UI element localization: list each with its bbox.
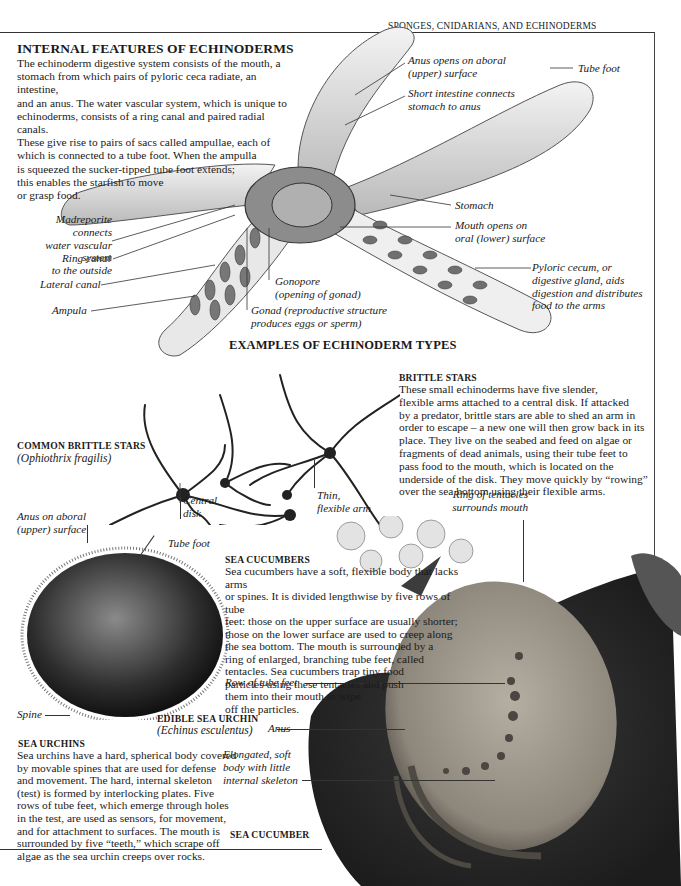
leader-anus	[277, 729, 405, 730]
common-brittle-stars-caption: COMMON BRITTLE STARS	[17, 440, 146, 451]
label-short-intestine: Short intestine connects stomach to anus	[408, 87, 515, 113]
brittle-stars-body: These small echinoderms have five slende…	[399, 383, 659, 498]
internal-features-body: The echinoderm digestive system consists…	[17, 57, 287, 202]
label-line: Madreporite connects	[16, 213, 112, 239]
label-line: Anus opens on aboral	[408, 54, 506, 67]
label-line: Ring of tentacles	[448, 488, 528, 501]
text-line: by movable spines that are used for defe…	[17, 762, 237, 775]
label-spine: Spine	[17, 708, 42, 721]
label-gonopore: Gonopore (opening of gonad)	[275, 275, 361, 301]
label-ampula: Ampula	[52, 304, 87, 317]
leader-urchin-anus	[87, 525, 88, 543]
sea-urchins-body: Sea urchins have a hard, spherical body …	[17, 749, 237, 862]
label-line: surrounds mouth	[448, 501, 528, 514]
text-line: underside of the disk. They move quickly…	[399, 473, 659, 486]
label-line: (opening of gonad)	[275, 288, 361, 301]
text-line: flexible arms attached to a central disk…	[399, 396, 659, 409]
label-line: Gonopore	[275, 275, 361, 288]
label-thin-arm: Thin, flexible arm	[317, 489, 371, 515]
label-urchin-tube-foot: Tube foot	[168, 537, 210, 550]
text-line: (test) is formed by interlocking plates.…	[17, 787, 237, 800]
text-line: and an anus. The water vascular system, …	[17, 97, 287, 110]
text-line: These give rise to pairs of sacs called …	[17, 136, 287, 149]
label-ring-canal: Ring canal	[62, 252, 111, 265]
label-line: digestion and distributes	[532, 287, 643, 300]
label-line: flexible arm	[317, 502, 371, 515]
label-pyloric-cecum: Pyloric cecum, or digestive gland, aids …	[532, 261, 643, 312]
text-line: Sea cucumbers have a soft, flexible body…	[225, 565, 460, 590]
label-lateral-canal: Lateral canal	[40, 278, 101, 291]
label-madreporite: Madreporite connects water vascular syst…	[16, 213, 112, 277]
label-line: Gonad (reproductive structure	[251, 304, 387, 317]
text-line: The echinoderm digestive system consists…	[17, 57, 287, 70]
label-line: Elongated, soft	[223, 748, 298, 761]
text-line: surrounded by five “teeth,” which scrape…	[17, 837, 237, 850]
label-row-of-tube-feet: Row of tube feet	[225, 676, 297, 689]
internal-features-title: INTERNAL FEATURES OF ECHINODERMS	[17, 41, 294, 57]
text-line: place. They live on the seabed and feed …	[399, 434, 659, 447]
sea-urchins-title: SEA URCHINS	[18, 738, 85, 749]
leader-tentacles	[523, 520, 524, 582]
label-line: oral (lower) surface	[455, 232, 545, 245]
text-line: These small echinoderms have five slende…	[399, 383, 659, 396]
edible-sea-urchin-latin: (Echinus esculentus)	[157, 724, 253, 737]
label-line: stomach to anus	[408, 100, 515, 113]
text-line: pass food to the mouth, which is located…	[399, 460, 659, 473]
text-line: feet: those on the upper surface are usu…	[225, 615, 460, 628]
text-line: and movement. The hard, internal skeleto…	[17, 774, 237, 787]
text-line: by a predator, brittle stars are able to…	[399, 409, 659, 422]
label-line: digestive gland, aids	[532, 274, 643, 287]
label-line: Thin,	[317, 489, 371, 502]
text-line: this enables the starfish to move	[17, 176, 287, 189]
label-central-disk: Central disk	[183, 494, 217, 520]
label-line: disk	[183, 507, 217, 520]
leader-thin-arm	[314, 460, 315, 488]
label-gonad: Gonad (reproductive structure produces e…	[251, 304, 387, 330]
label-line: Pyloric cecum, or	[532, 261, 643, 274]
leader-spine	[45, 715, 70, 716]
common-brittle-stars-latin: (Ophiothrix fragilis)	[17, 452, 111, 465]
text-line: order to escape – a new one will then gr…	[399, 421, 659, 434]
label-line: (upper) surface	[17, 523, 86, 536]
text-line: the sea bottom. The mouth is surrounded …	[225, 640, 460, 653]
label-line: Mouth opens on	[455, 219, 545, 232]
label-elongated-body: Elongated, soft body with little interna…	[223, 748, 298, 786]
text-line: them into their mouth to wipe	[225, 690, 460, 703]
text-line: off the particles.	[225, 703, 460, 716]
label-urchin-anus: Anus on aboral (upper) surface	[17, 510, 86, 536]
label-cucumber-anus: Anus	[268, 722, 290, 735]
label-mouth: Mouth opens on oral (lower) surface	[455, 219, 545, 245]
text-line: Sea urchins have a hard, spherical body …	[17, 749, 237, 762]
label-stomach: Stomach	[455, 199, 494, 212]
examples-title: EXAMPLES OF ECHINODERM TYPES	[229, 338, 456, 353]
text-line: or spines. It is divided lengthwise by f…	[225, 590, 460, 615]
text-line: rows of tube feet, which emerge through …	[17, 799, 237, 812]
label-line: to the outside	[16, 264, 112, 277]
text-line: and for attachment to surfaces. The mout…	[17, 825, 237, 838]
label-line: Anus on aboral	[17, 510, 86, 523]
text-line: is squeezed the sucker-tipped tube foot …	[17, 163, 287, 176]
text-line: stomach from which pairs of pyloric ceca…	[17, 70, 287, 96]
leader-central-disk	[180, 497, 181, 519]
text-line: algae as the sea urchin creeps over rock…	[17, 850, 237, 863]
text-line: fragments of dead animals, using their t…	[399, 447, 659, 460]
sea-cucumber-caption: SEA CUCUMBER	[230, 829, 309, 840]
label-line: body with little	[223, 761, 298, 774]
sea-cucumbers-title: SEA CUCUMBERS	[225, 554, 310, 565]
label-line: internal skeleton	[223, 774, 298, 787]
text-line: which is connected to a tube foot. When …	[17, 149, 287, 162]
label-tube-foot: Tube foot	[578, 62, 620, 75]
text-line: those on the lower surface are used to c…	[225, 628, 460, 641]
text-line: echinoderms, consists of a ring canal an…	[17, 110, 287, 136]
leader-body	[302, 780, 495, 781]
brittle-stars-title: BRITTLE STARS	[399, 372, 477, 383]
label-line: (upper) surface	[408, 67, 506, 80]
text-line: over the sea bottom using their flexible…	[399, 485, 659, 498]
label-line: Central	[183, 494, 217, 507]
label-line: food to the arms	[532, 299, 643, 312]
label-line: Short intestine connects	[408, 87, 515, 100]
label-ring-of-tentacles: Ring of tentacles surrounds mouth	[448, 488, 528, 514]
sea-urchin-illustration	[20, 540, 230, 720]
text-line: or grasp food.	[17, 189, 287, 202]
label-anus-aboral: Anus opens on aboral (upper) surface	[408, 54, 506, 80]
